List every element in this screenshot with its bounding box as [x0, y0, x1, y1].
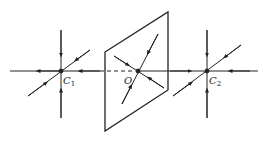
equilibrium-o: [114, 34, 164, 104]
diagram-canvas: C1 O C2: [0, 0, 263, 143]
label-c2: C2: [209, 75, 221, 88]
label-o: O: [124, 75, 132, 86]
equilibrium-c2: [170, 30, 250, 118]
label-c1: C1: [63, 75, 75, 88]
equilibrium-c1: [28, 30, 100, 118]
